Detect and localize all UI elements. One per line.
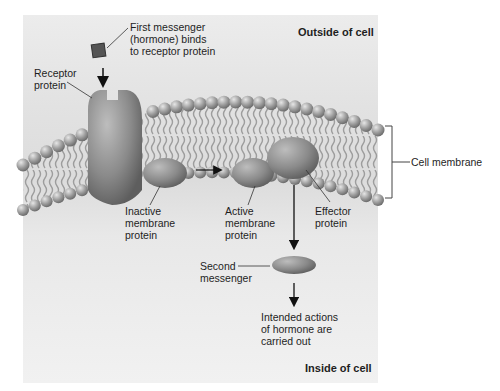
second-messenger [272,256,316,274]
inactive-protein [143,158,187,188]
hormone-square [91,43,106,58]
effector-label: Effector protein [315,205,351,229]
inside-label: Inside of cell [305,362,372,374]
active-label: Active membrane protein [225,205,275,241]
receptor-label: Receptor protein [34,67,77,91]
effector-protein [267,137,319,179]
membrane-bracket [385,126,410,198]
cell-membrane-label: Cell membrane [411,156,482,168]
membrane-illustration [0,0,500,391]
intended-actions-label: Intended actions of hormone are carried … [261,311,338,347]
first-messenger-label: First messenger (hormone) binds to recep… [130,21,215,57]
receptor-protein [88,90,142,205]
second-messenger-label: Second messenger [200,260,252,284]
outside-label: Outside of cell [298,26,374,38]
lipid-bilayer [17,96,385,217]
inactive-label: Inactive membrane protein [125,205,175,241]
